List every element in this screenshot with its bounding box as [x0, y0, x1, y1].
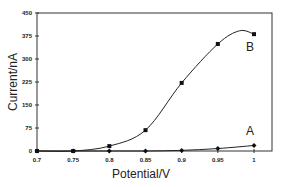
series-a-point — [215, 146, 220, 151]
x-tick-label: 0.9 — [177, 157, 186, 163]
y-tick-label: 300 — [22, 56, 33, 62]
series-b-point — [35, 149, 39, 153]
series-b-point — [107, 144, 111, 148]
plot-frame — [37, 13, 272, 151]
y-tick-label: 75 — [25, 125, 32, 131]
y-tick-label: 450 — [22, 10, 33, 16]
x-axis-title: Potential/V — [112, 167, 170, 181]
y-tick-label: 225 — [22, 79, 33, 85]
series-a-point — [143, 149, 148, 154]
chart: 075150225300375450 0.70.750.80.850.90.95… — [0, 0, 283, 187]
series-b-curve — [37, 30, 254, 151]
y-tick-label: 150 — [22, 102, 33, 108]
series-a-point — [107, 149, 112, 154]
series-b-point — [144, 128, 148, 132]
x-tick-label: 0.85 — [140, 157, 152, 163]
y-tick-label: 375 — [22, 33, 33, 39]
x-tick-label: 0.75 — [67, 157, 79, 163]
x-tick-label: 0.7 — [33, 157, 42, 163]
x-tick-label: 0.8 — [105, 157, 114, 163]
series-a-point — [179, 148, 184, 153]
y-axis-title: Current/nA — [6, 53, 20, 111]
y-tick-label: 0 — [29, 148, 33, 154]
series-a-point — [252, 143, 257, 148]
series-b-point — [216, 42, 220, 46]
x-tick-label: 1 — [252, 157, 256, 163]
series-b-markers — [35, 32, 256, 153]
series-b-point — [252, 32, 256, 36]
series-b-label: B — [246, 40, 254, 54]
series-b-point — [71, 149, 75, 153]
x-tick-label: 0.95 — [212, 157, 224, 163]
series-b-point — [180, 81, 184, 85]
y-axis-ticks: 075150225300375450 — [22, 10, 39, 154]
series-a-label: A — [246, 124, 254, 138]
